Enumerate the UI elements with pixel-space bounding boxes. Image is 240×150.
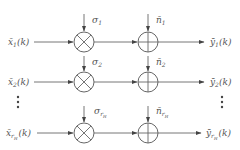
gain-label-2: σ2 xyxy=(92,57,102,68)
channel-row-2: x̄2(k) σ2 n̄2 ȳ2(k) xyxy=(8,56,232,92)
noise-label-1: n̄1 xyxy=(156,15,166,26)
adder-node-1 xyxy=(138,32,158,52)
adder-node-n xyxy=(138,123,158,143)
noise-label-2: n̄2 xyxy=(156,57,166,68)
output-label-n: ȳrH(k) xyxy=(205,128,231,141)
output-label-1: ȳ1(k) xyxy=(209,37,232,48)
channel-row-1: x̄1(k) σ1 n̄1 ȳ1(k) xyxy=(8,14,232,52)
input-label-n: x̄rH(k) xyxy=(6,128,31,141)
ellipsis-left xyxy=(17,96,19,108)
multiplier-node-2 xyxy=(74,72,94,92)
ellipsis-right xyxy=(221,96,223,108)
multiplier-node-1 xyxy=(74,32,94,52)
adder-node-2 xyxy=(138,72,158,92)
output-label-2: ȳ2(k) xyxy=(209,77,232,88)
input-label-1: x̄1(k) xyxy=(8,37,30,48)
gain-label-1: σ1 xyxy=(92,15,102,26)
gain-label-n: σrH xyxy=(94,106,107,119)
channel-row-n: x̄rH(k) σrH n̄rH ȳrH(k) xyxy=(6,106,231,143)
block-diagram: x̄1(k) σ1 n̄1 ȳ1(k) x̄2(k) xyxy=(0,0,240,150)
multiplier-node-n xyxy=(74,123,94,143)
noise-label-n: n̄rH xyxy=(156,106,169,119)
input-label-2: x̄2(k) xyxy=(8,77,30,88)
